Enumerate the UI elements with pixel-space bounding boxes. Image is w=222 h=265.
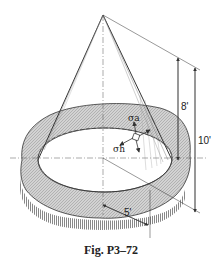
label-sigma-h: σh <box>113 145 125 154</box>
label-sigma-a: σa <box>128 114 140 123</box>
label-radius: 5' <box>124 208 131 218</box>
label-8ft: 8' <box>181 102 188 112</box>
ground-ring <box>21 104 191 219</box>
label-10ft: 10' <box>198 136 211 146</box>
cone-edge-left <box>38 15 103 160</box>
cone-diagram <box>0 0 222 265</box>
figure-caption: Fig. P3–72 <box>0 243 222 258</box>
